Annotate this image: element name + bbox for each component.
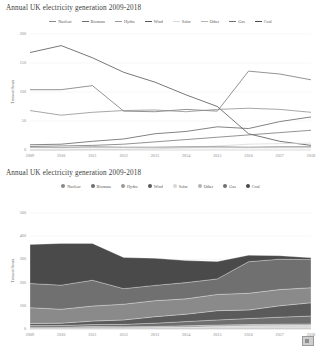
legend-dot-icon (91, 184, 95, 188)
x-axis-tick-label: 2018 (301, 153, 321, 158)
legend-item-gas[interactable]: Gas (229, 19, 245, 24)
y-axis-tick-label: 200 (0, 31, 26, 36)
cb-watermark-logo (302, 336, 314, 346)
line-series-coal (30, 46, 311, 146)
line-chart-legend: NuclearBiomassHydroWindSolarOtherGasCoal (0, 16, 321, 26)
y-axis-tick-label: 500 (0, 210, 26, 215)
area-chart-legend: NuclearBiomassHydroWindSolarOtherGasCoal (0, 181, 321, 191)
legend-item-label: Biomass (97, 184, 111, 189)
cb-watermark-inner (305, 339, 309, 343)
legend-item-nuclear[interactable]: Nuclear (49, 19, 71, 24)
legend-dot-icon (148, 184, 152, 188)
legend-item-label: Other (204, 184, 214, 189)
legend-item-other[interactable]: Other (201, 19, 220, 24)
legend-item-solar[interactable]: Solar (173, 184, 188, 189)
line-series-gas (30, 71, 311, 112)
x-axis-tick-label: 2013 (145, 332, 165, 337)
legend-item-label: Coal (252, 184, 260, 189)
x-axis-tick-label: 2012 (114, 332, 134, 337)
legend-item-wind[interactable]: Wind (148, 184, 163, 189)
area-chart-block: Annual UK electricity generation 2009-20… (0, 165, 321, 354)
x-axis-tick-label: 2015 (207, 332, 227, 337)
x-axis-tick-label: 2013 (145, 153, 165, 158)
x-axis-tick-label: 2010 (51, 332, 71, 337)
legend-line-icon (173, 21, 180, 22)
legend-item-label: Wind (154, 19, 163, 24)
y-axis-tick-label: 50 (0, 118, 26, 123)
legend-item-label: Other (210, 19, 220, 24)
legend-line-icon (49, 21, 56, 22)
y-axis-tick-label: 0 (0, 326, 26, 331)
x-axis-tick-label: 2014 (176, 332, 196, 337)
legend-item-hydro[interactable]: Hydro (121, 184, 138, 189)
legend-item-label: Coal (264, 19, 272, 24)
legend-dot-icon (223, 184, 227, 188)
legend-dot-icon (246, 184, 250, 188)
legend-dot-icon (121, 184, 125, 188)
legend-item-solar[interactable]: Solar (173, 19, 191, 24)
x-axis-tick-label: 2017 (270, 332, 290, 337)
legend-item-label: Wind (154, 184, 163, 189)
line-chart-svg (0, 26, 321, 166)
y-axis-tick-label: 150 (0, 60, 26, 65)
legend-item-biomass[interactable]: Biomass (82, 19, 105, 24)
legend-item-other[interactable]: Other (198, 184, 214, 189)
legend-line-icon (145, 21, 152, 22)
x-axis-tick-label: 2012 (114, 153, 134, 158)
y-axis-tick-label: 400 (0, 233, 26, 238)
legend-item-label: Solar (179, 184, 188, 189)
area-chart-svg (0, 191, 321, 351)
legend-item-label: Biomass (91, 19, 105, 24)
legend-item-wind[interactable]: Wind (145, 19, 163, 24)
x-axis-tick-label: 2009 (20, 332, 40, 337)
legend-item-label: Nuclear (58, 19, 71, 24)
line-chart-title: Annual UK electricity generation 2009-20… (0, 0, 321, 12)
legend-item-label: Hydro (127, 184, 138, 189)
x-axis-tick-label: 2016 (239, 153, 259, 158)
legend-dot-icon (173, 184, 177, 188)
legend-line-icon (82, 21, 89, 22)
legend-item-label: Nuclear (67, 184, 80, 189)
legend-item-biomass[interactable]: Biomass (91, 184, 111, 189)
x-axis-tick-label: 2010 (51, 153, 71, 158)
legend-item-label: Solar (182, 19, 191, 24)
legend-dot-icon (198, 184, 202, 188)
area-chart-plot: 0100200300400500200920102011201220132014… (0, 191, 321, 351)
legend-line-icon (201, 21, 208, 22)
legend-dot-icon (61, 184, 65, 188)
y-axis-title: Terawatt hours (10, 72, 15, 112)
x-axis-tick-label: 2009 (20, 153, 40, 158)
line-series-nuclear (30, 108, 311, 115)
x-axis-tick-label: 2015 (207, 153, 227, 158)
legend-item-coal[interactable]: Coal (246, 184, 260, 189)
line-chart-plot: 0501001502002009201020112012201320142015… (0, 26, 321, 166)
y-axis-tick-label: 100 (0, 303, 26, 308)
legend-item-label: Hydro (124, 19, 135, 24)
y-axis-tick-label: 0 (0, 147, 26, 152)
y-axis-title: Terawatt hours (10, 251, 15, 291)
line-chart-block: Annual UK electricity generation 2009-20… (0, 0, 321, 165)
legend-line-icon (255, 21, 262, 22)
legend-line-icon (115, 21, 122, 22)
legend-item-label: Gas (238, 19, 245, 24)
x-axis-tick-label: 2011 (82, 153, 102, 158)
x-axis-tick-label: 2011 (82, 332, 102, 337)
x-axis-tick-label: 2017 (270, 153, 290, 158)
legend-item-gas[interactable]: Gas (223, 184, 236, 189)
legend-item-hydro[interactable]: Hydro (115, 19, 135, 24)
x-axis-tick-label: 2016 (239, 332, 259, 337)
x-axis-tick-label: 2014 (176, 153, 196, 158)
legend-item-coal[interactable]: Coal (255, 19, 272, 24)
legend-item-label: Gas (229, 184, 236, 189)
legend-line-icon (229, 21, 236, 22)
legend-item-nuclear[interactable]: Nuclear (61, 184, 80, 189)
area-chart-title: Annual UK electricity generation 2009-20… (0, 165, 321, 177)
